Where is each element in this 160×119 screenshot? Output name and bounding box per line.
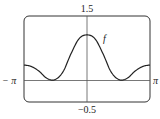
- x-min-label: − π: [2, 75, 17, 86]
- chart: 1.5 −0.5 − π π f: [0, 0, 160, 119]
- y-max-label: 1.5: [81, 3, 94, 14]
- x-max-label: π: [153, 75, 159, 86]
- y-min-label: −0.5: [78, 104, 96, 115]
- curve-label-f: f: [103, 33, 107, 44]
